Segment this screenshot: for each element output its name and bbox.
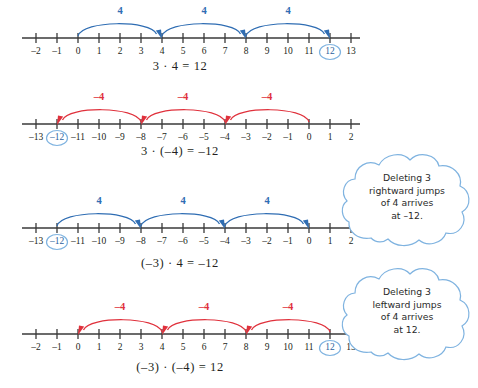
jump-arc-label: 4 xyxy=(163,195,203,207)
jump-arc-label: 4 xyxy=(100,5,140,17)
jump-arc-label: 4 xyxy=(268,5,308,17)
equation-4: (–3) · (–4) = 12 xyxy=(0,360,360,375)
jump-arc-label: –4 xyxy=(100,301,140,313)
tick-label: 2 xyxy=(339,132,363,143)
callout-line: of 4 arrives xyxy=(352,311,462,324)
jump-arc-label: –4 xyxy=(184,301,224,313)
equation-2: 3 · (–4) = –12 xyxy=(0,144,360,159)
callout-text-2: Deleting 3leftward jumpsof 4 arrivesat 1… xyxy=(352,286,462,336)
callout-line: Deleting 3 xyxy=(352,172,462,185)
figure-canvas: 444–2–1012345678910111213 –4–4–4–13–12–1… xyxy=(0,0,478,388)
callout-line: rightward jumps xyxy=(352,185,462,198)
callout-cloud-1: Deleting 3rightward jumpsof 4 arrivesat … xyxy=(338,148,476,256)
jump-arc-label: –4 xyxy=(247,91,287,103)
callout-line: at –12. xyxy=(352,210,462,223)
callout-line: at 12. xyxy=(352,324,462,337)
callout-line: Deleting 3 xyxy=(352,286,462,299)
callout-line: of 4 arrives xyxy=(352,197,462,210)
jump-arc-label: –4 xyxy=(79,91,119,103)
tick-label: 13 xyxy=(339,46,363,57)
equation-1: 3 · 4 = 12 xyxy=(0,59,360,74)
callout-text-1: Deleting 3rightward jumpsof 4 arrivesat … xyxy=(352,172,462,222)
callout-cloud-2: Deleting 3leftward jumpsof 4 arrivesat 1… xyxy=(338,262,476,370)
jump-arc-label: 4 xyxy=(79,195,119,207)
number-line-2: –4–4–4–13–12–11–10–9–8–7–6–5–4–3–2–1012 xyxy=(0,86,360,172)
jump-arc-label: –4 xyxy=(268,301,308,313)
equation-3: (–3) · 4 = –12 xyxy=(0,256,360,271)
callout-line: leftward jumps xyxy=(352,299,462,312)
jump-arc-label: –4 xyxy=(163,91,203,103)
jump-arc-label: 4 xyxy=(184,5,224,17)
jump-arc-label: 4 xyxy=(247,195,287,207)
